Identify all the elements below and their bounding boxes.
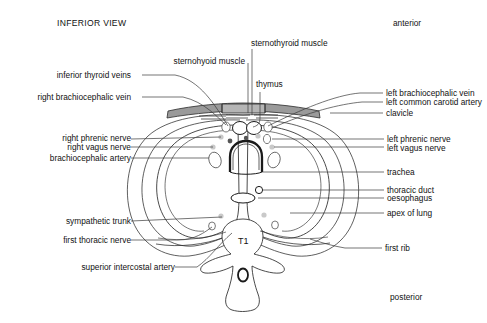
label-clavicle: clavicle xyxy=(386,109,413,119)
label-first-rib: first rib xyxy=(385,244,410,254)
label-first-thoracic-nerve: first thoracic nerve xyxy=(63,236,131,246)
orientation-posterior: posterior xyxy=(390,292,422,302)
label-thymus: thymus xyxy=(256,80,283,90)
page-title: INFERIOR VIEW xyxy=(57,18,126,28)
strap-muscles xyxy=(199,115,278,119)
label-superior-intercostal-artery: superior intercostal artery xyxy=(81,263,175,273)
label-trachea: trachea xyxy=(387,168,415,178)
label-left-common-carotid-artery: left common carotid artery xyxy=(386,98,482,108)
label-sternohyoid-muscle: sternohyoid muscle xyxy=(174,57,245,67)
label-sternothyroid-muscle: sternothyroid muscle xyxy=(251,39,328,49)
label-apex-of-lung: apex of lung xyxy=(387,209,432,219)
label-sympathetic-trunk: sympathetic trunk xyxy=(66,217,131,227)
thoracic-inlet-diagram: .ln { fill:none; stroke:#2b2b2b; stroke-… xyxy=(0,0,487,323)
orientation-anterior: anterior xyxy=(393,18,421,28)
label-right-brachiocephalic-vein: right brachiocephalic vein xyxy=(37,93,131,103)
label-right-vagus-nerve: right vagus nerve xyxy=(67,143,131,153)
label-left-vagus-nerve: left vagus nerve xyxy=(387,144,446,154)
label-brachiocephalic-artery: brachiocephalic artery xyxy=(50,154,131,164)
label-t1-vertebra: T1 xyxy=(238,236,249,246)
clavicle-and-manubrium xyxy=(167,103,320,118)
label-inferior-thyroid-veins: inferior thyroid veins xyxy=(57,71,131,81)
label-oesophagus: oesophagus xyxy=(387,194,432,204)
